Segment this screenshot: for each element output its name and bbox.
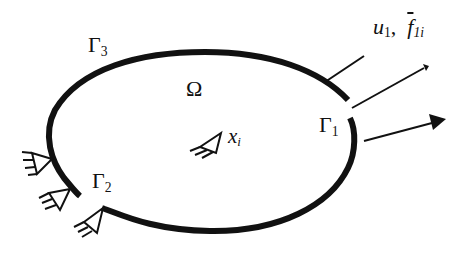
arrowhead-small-icon	[423, 64, 429, 71]
force-arrowhead-icon	[429, 114, 446, 130]
gamma3-label: Γ3	[88, 34, 108, 59]
support-icon-2	[39, 189, 70, 210]
traction-line-right	[352, 68, 424, 108]
support-icon-3	[74, 208, 103, 237]
gamma1-label: Γ1	[319, 114, 339, 139]
omega-label: Ω	[186, 78, 202, 100]
traction-line-upper	[325, 56, 364, 82]
interior-point-support-icon	[190, 133, 221, 158]
support-icon-1	[22, 152, 52, 175]
load-label: u1, f1i	[373, 16, 424, 40]
interior-point-label: xi	[228, 126, 241, 148]
force-arrow-line	[364, 123, 432, 141]
gamma2-label: Γ2	[92, 170, 112, 195]
